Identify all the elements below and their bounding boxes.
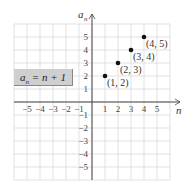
x-tick-label: −4 <box>35 104 45 114</box>
y-tick-label: −4 <box>78 149 88 159</box>
y-tick-label: 4 <box>84 45 89 55</box>
y-tick-label: 1 <box>84 84 89 94</box>
coordinate-plot: nan −5−4−3−2−112345−5−4−3−2−112345 (1, 2… <box>0 0 196 193</box>
x-tick-label: 1 <box>103 104 108 114</box>
x-tick-label: −2 <box>61 104 71 114</box>
data-point-label: (3, 4) <box>133 51 155 63</box>
y-tick-label: −1 <box>78 110 88 120</box>
y-tick-label: 5 <box>84 32 89 42</box>
x-tick-label: −5 <box>22 104 32 114</box>
data-point-label: (2, 3) <box>120 64 142 76</box>
x-tick-label: 2 <box>116 104 121 114</box>
y-tick-label: −5 <box>78 162 88 172</box>
x-tick-label: 4 <box>142 104 147 114</box>
x-axis-label: n <box>176 104 182 116</box>
x-tick-label: 5 <box>155 104 160 114</box>
y-tick-label: −2 <box>78 123 88 133</box>
x-tick-label: −3 <box>48 104 58 114</box>
formula-rhs: = n + 1 <box>29 71 66 83</box>
y-tick-label: 3 <box>84 58 89 68</box>
data-point-label: (1, 2) <box>107 77 129 89</box>
x-tick-label: 3 <box>129 104 134 114</box>
y-tick-label: 2 <box>84 71 89 81</box>
y-axis-label-sub: n <box>84 15 88 23</box>
data-point-label: (4, 5) <box>146 38 168 50</box>
data-points: (1, 2)(2, 3)(3, 4)(4, 5) <box>103 35 168 89</box>
y-tick-label: −3 <box>78 136 88 146</box>
formula-label: an = n + 1 <box>14 69 73 86</box>
